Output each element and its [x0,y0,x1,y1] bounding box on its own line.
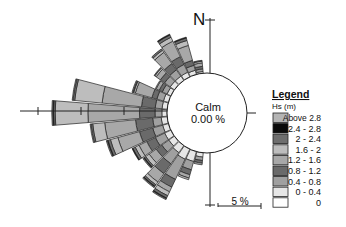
legend-label: 0.4 - 0.8 [288,177,321,187]
legend-swatch [273,177,288,186]
legend-swatch [273,155,288,164]
sector-segment [52,101,53,126]
legend-label: Above 2.8 [283,113,322,123]
legend-swatch [273,134,288,143]
legend-swatch [273,145,288,154]
legend-label: 1.2 - 1.6 [288,155,321,165]
legend-subtitle: Hs (m) [272,102,296,111]
sector-segment [88,103,140,122]
legend-swatch [273,124,288,133]
wave-rose-chart: N Calm 0.00 % 5 % Legend Hs (m) Above 2.… [0,0,346,227]
legend-label: 2 - 2.4 [295,134,321,144]
legend-label: 2.4 - 2.8 [288,124,321,134]
legend-swatch [273,166,288,175]
legend-swatch [273,198,288,207]
legend-label: 0 - 0.4 [295,187,321,197]
legend-swatch [273,187,288,196]
sector-segment [162,109,167,116]
legend-title: Legend [272,88,309,100]
legend-label: 1.6 - 2 [295,145,321,155]
north-label: N [193,10,205,29]
legend: Legend Hs (m) Above 2.82.4 - 2.82 - 2.41… [272,88,321,208]
legend-bins: Above 2.82.4 - 2.82 - 2.41.6 - 21.2 - 1.… [273,113,321,208]
calm-value: 0.00 % [191,113,225,125]
calm-label: Calm [195,101,221,113]
sector-segment [55,101,88,125]
scale-bar: 5 % [218,196,261,209]
sector-segment [75,80,105,104]
legend-label: 0 [316,198,321,208]
sector-segment [155,109,162,117]
legend-label: 0.8 - 1.2 [288,166,321,176]
sector-segment [139,108,155,119]
scale-bar-label: 5 % [231,196,248,207]
